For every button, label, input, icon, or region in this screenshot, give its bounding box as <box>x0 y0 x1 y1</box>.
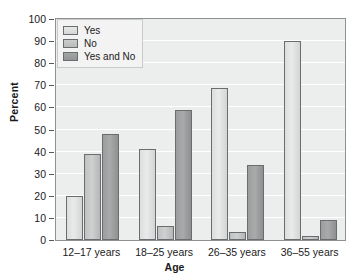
y-axis-tick-label: 90 <box>0 35 46 47</box>
legend-swatch-icon <box>63 26 78 35</box>
y-axis-tick-mark <box>49 63 54 64</box>
y-axis-tick-mark <box>49 196 54 197</box>
legend-label: Yes and No <box>84 51 135 62</box>
bar-group <box>274 19 347 240</box>
bar <box>302 236 319 240</box>
legend-swatch-icon <box>63 39 78 48</box>
chart-legend: YesNoYes and No <box>57 19 143 68</box>
bar <box>247 165 264 240</box>
legend-swatch-icon <box>63 52 78 61</box>
y-axis-tick-mark <box>49 107 54 108</box>
y-axis-tick-mark <box>49 152 54 153</box>
bar <box>175 110 192 240</box>
y-axis-tick-label: 20 <box>0 190 46 202</box>
bar <box>66 196 83 240</box>
bar <box>229 232 246 240</box>
y-axis-tick-mark <box>49 130 54 131</box>
bar <box>102 134 119 240</box>
legend-item: Yes <box>63 24 135 37</box>
y-axis-tick-mark <box>49 19 54 20</box>
y-axis-tick-mark <box>49 41 54 42</box>
bar-group <box>202 19 275 240</box>
y-axis-tick-label: 80 <box>0 57 46 69</box>
legend-label: Yes <box>84 25 100 36</box>
y-axis-tick-label: 0 <box>0 234 46 246</box>
y-axis-tick-label: 10 <box>0 212 46 224</box>
y-axis-tick-label: 70 <box>0 79 46 91</box>
bar <box>139 149 156 240</box>
y-axis-tick-mark <box>49 85 54 86</box>
x-axis-tick-label: 18–25 years <box>135 246 193 258</box>
y-axis-tick-label: 100 <box>0 13 46 25</box>
x-axis-tick-label: 26–35 years <box>208 246 266 258</box>
bar <box>284 41 301 240</box>
y-axis-tick-mark <box>49 174 54 175</box>
x-axis-title: Age <box>0 261 349 273</box>
legend-item: No <box>63 37 135 50</box>
bar <box>211 88 228 240</box>
y-axis-tick-label: 50 <box>0 124 46 136</box>
bar <box>84 154 101 240</box>
y-axis-tick-mark <box>49 240 54 241</box>
bar <box>320 220 337 240</box>
y-axis-tick-mark <box>49 218 54 219</box>
y-axis-tick-label: 40 <box>0 146 46 158</box>
y-axis-tick-label: 30 <box>0 168 46 180</box>
legend-item: Yes and No <box>63 50 135 63</box>
bar-chart: Percent 0102030405060708090100 YesNoYes … <box>0 0 349 278</box>
x-axis-tick-label: 36–55 years <box>281 246 339 258</box>
x-axis-tick-label: 12–17 years <box>62 246 120 258</box>
y-axis-tick-label: 60 <box>0 101 46 113</box>
bar <box>157 226 174 240</box>
legend-label: No <box>84 38 97 49</box>
